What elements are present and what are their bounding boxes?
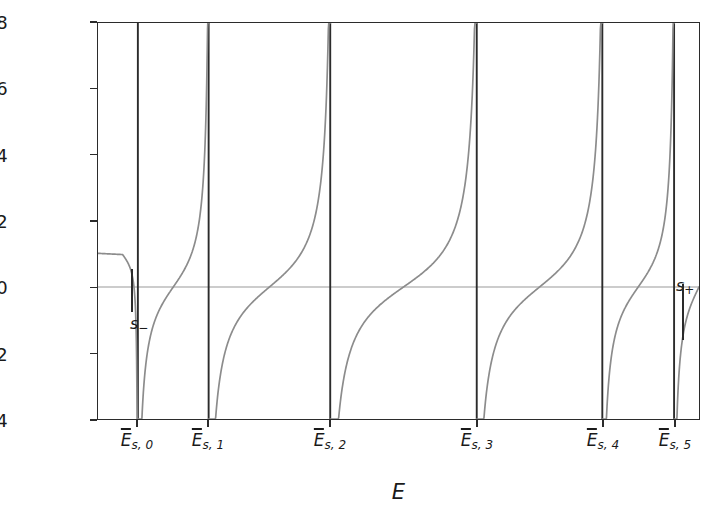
x-tick-mark bbox=[674, 420, 676, 427]
plot-canvas bbox=[98, 23, 699, 419]
annotation-s-plus: s+ bbox=[676, 276, 694, 297]
annotation-tick bbox=[682, 284, 684, 340]
figure-chart: Taj((L − 1)θj(0.9, E)) 86420−2−4Es, 0Es,… bbox=[0, 0, 720, 523]
y-tick-label: 0 bbox=[0, 277, 8, 298]
y-tick-mark bbox=[90, 21, 97, 23]
y-tick-label: 6 bbox=[0, 78, 8, 99]
x-tick-label: Es, 4 bbox=[587, 430, 619, 452]
curve-branch bbox=[477, 23, 603, 419]
curve-branch bbox=[138, 23, 209, 419]
y-tick-label: −2 bbox=[0, 343, 8, 364]
x-tick-label: Es, 0 bbox=[121, 430, 153, 452]
y-tick-mark bbox=[90, 287, 97, 289]
y-tick-label: −4 bbox=[0, 410, 8, 431]
y-tick-label: 2 bbox=[0, 211, 8, 232]
y-tick-mark bbox=[90, 353, 97, 355]
x-tick-label: Es, 2 bbox=[314, 430, 346, 452]
x-tick-mark bbox=[602, 420, 604, 427]
x-tick-mark bbox=[476, 420, 478, 427]
x-tick-mark bbox=[136, 420, 138, 427]
plot-area bbox=[97, 22, 700, 420]
annotation-s-minus: s− bbox=[130, 314, 148, 335]
curve-branch bbox=[330, 23, 477, 419]
y-tick-mark bbox=[90, 419, 97, 421]
x-tick-mark bbox=[329, 420, 331, 427]
curve-branch-right-partial bbox=[674, 287, 699, 419]
x-axis-label: E bbox=[392, 480, 405, 504]
y-tick-label: 4 bbox=[0, 144, 8, 165]
y-tick-mark bbox=[90, 154, 97, 156]
x-tick-mark bbox=[207, 420, 209, 427]
y-tick-mark bbox=[90, 220, 97, 222]
y-tick-mark bbox=[90, 88, 97, 90]
annotation-tick bbox=[131, 269, 133, 312]
x-tick-label: Es, 1 bbox=[192, 430, 224, 452]
curve-branch bbox=[602, 23, 674, 419]
x-tick-label: Es, 3 bbox=[461, 430, 493, 452]
curve-branch bbox=[209, 23, 331, 419]
x-tick-label: Es, 5 bbox=[659, 430, 691, 452]
y-tick-label: 8 bbox=[0, 12, 8, 33]
